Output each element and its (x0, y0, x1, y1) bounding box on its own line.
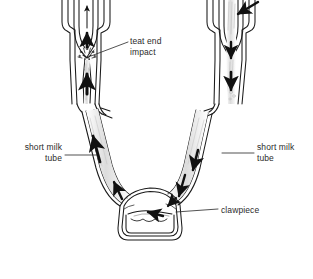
label-clawpiece: clawpiece (221, 205, 259, 216)
label-teat-end-impact: teat end impact (130, 36, 162, 57)
milk-froth-line (131, 219, 167, 222)
milking-cluster-diagram: teat end impact short milk tube short mi… (0, 0, 313, 279)
leader-clawpiece (176, 209, 218, 212)
label-short-milk-tube-left: short milk tube (2, 142, 62, 163)
label-short-milk-tube-right: short milk tube (257, 142, 313, 163)
